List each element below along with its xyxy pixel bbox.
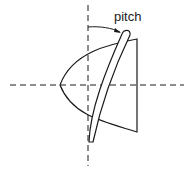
pitch-diagram: pitch [0, 0, 186, 171]
pitch-label: pitch [114, 9, 141, 24]
curved-blade [89, 30, 130, 142]
pitch-arc-arrow [88, 27, 121, 33]
